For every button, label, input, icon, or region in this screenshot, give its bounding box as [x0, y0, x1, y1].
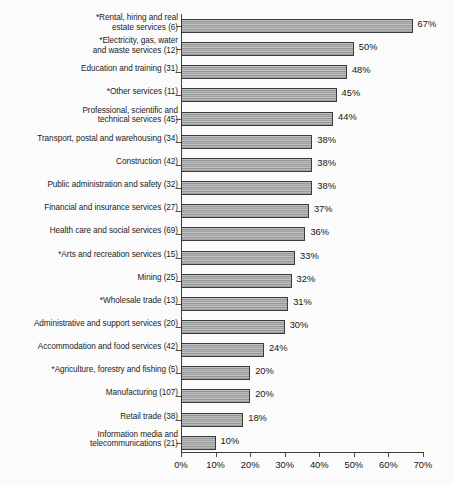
category-label: Financial and insurance services (27) [0, 203, 178, 213]
bar-value-label: 36% [310, 226, 329, 238]
x-axis-tick [181, 453, 182, 457]
y-axis-tick [176, 165, 181, 166]
bar [181, 65, 347, 79]
bar-chart: *Rental, hiring and real estate services… [0, 0, 454, 486]
bar-row: Public administration and safety (32)38% [0, 176, 454, 199]
y-axis-tick [176, 396, 181, 397]
bar [181, 274, 292, 288]
bar-value-label: 24% [269, 342, 288, 354]
bar-value-label: 18% [248, 412, 267, 424]
bar [181, 436, 216, 450]
y-axis-tick [176, 211, 181, 212]
category-label: *Arts and recreation services (15) [0, 250, 178, 260]
bar-row: Retail trade (38)18% [0, 408, 454, 431]
bar-value-label: 38% [317, 157, 336, 169]
bar-value-label: 20% [255, 388, 274, 400]
bar [181, 42, 354, 56]
bar [181, 204, 309, 218]
y-axis-tick [176, 188, 181, 189]
bar [181, 112, 333, 126]
y-axis-tick [176, 420, 181, 421]
category-label: Manufacturing (107) [0, 388, 178, 398]
bar-value-label: 38% [317, 180, 336, 192]
bar-row: Manufacturing (107)20% [0, 384, 454, 407]
bar [181, 135, 312, 149]
y-axis-tick [176, 142, 181, 143]
bar-row: Accommodation and food services (42)24% [0, 338, 454, 361]
bar [181, 413, 243, 427]
category-label: *Rental, hiring and real estate services… [0, 13, 178, 32]
bar-value-label: 33% [300, 250, 319, 262]
bar-value-label: 45% [342, 87, 361, 99]
x-axis-tick-label: 70% [403, 459, 443, 471]
bar [181, 389, 250, 403]
category-label: Health care and social services (69) [0, 226, 178, 236]
category-label: *Other services (11) [0, 87, 178, 97]
bar [181, 366, 250, 380]
category-label: *Electricity, gas, water and waste servi… [0, 36, 178, 55]
bar [181, 158, 312, 172]
bar-row: Education and training (31)48% [0, 60, 454, 83]
bar [181, 19, 413, 33]
bar-value-label: 31% [293, 296, 312, 308]
y-axis-tick [176, 304, 181, 305]
category-label: Mining (25) [0, 273, 178, 283]
y-axis-tick [176, 234, 181, 235]
category-label: Professional, scientific and technical s… [0, 106, 178, 125]
category-label: Public administration and safety (32) [0, 180, 178, 190]
bar [181, 227, 305, 241]
bar-value-label: 32% [297, 273, 316, 285]
bar-value-label: 48% [352, 64, 371, 76]
bar-value-label: 67% [418, 18, 437, 30]
bar-row: Information media and telecommunications… [0, 431, 454, 454]
bar-row: Financial and insurance services (27)37% [0, 199, 454, 222]
bar-row: *Agriculture, forestry and fishing (5)20… [0, 361, 454, 384]
bar-row: Administrative and support services (20)… [0, 315, 454, 338]
category-label: Retail trade (38) [0, 412, 178, 422]
y-axis-tick [176, 72, 181, 73]
x-axis-tick [354, 453, 355, 457]
bar-row: *Wholesale trade (13)31% [0, 292, 454, 315]
category-label: Accommodation and food services (42) [0, 342, 178, 352]
category-label: Construction (42) [0, 157, 178, 167]
bar-row: *Electricity, gas, water and waste servi… [0, 37, 454, 60]
y-axis-tick [176, 373, 181, 374]
bar-value-label: 30% [290, 319, 309, 331]
bar [181, 181, 312, 195]
x-axis-tick [388, 453, 389, 457]
y-axis-tick [176, 443, 181, 444]
bar-row: Mining (25)32% [0, 269, 454, 292]
bar-row: *Rental, hiring and real estate services… [0, 14, 454, 37]
category-label: *Wholesale trade (13) [0, 296, 178, 306]
category-label: Transport, postal and warehousing (34) [0, 134, 178, 144]
bar-row: Construction (42)38% [0, 153, 454, 176]
bar [181, 320, 285, 334]
bar-row: *Arts and recreation services (15)33% [0, 246, 454, 269]
bar-row: *Other services (11)45% [0, 83, 454, 106]
x-axis-tick [250, 453, 251, 457]
bar-row: Health care and social services (69)36% [0, 222, 454, 245]
bar-value-label: 38% [317, 134, 336, 146]
x-axis-tick [319, 453, 320, 457]
y-axis-tick [176, 350, 181, 351]
y-axis-tick [176, 95, 181, 96]
bar-value-label: 50% [359, 41, 378, 53]
x-axis-tick [216, 453, 217, 457]
y-axis-tick [176, 258, 181, 259]
bar [181, 88, 337, 102]
category-label: Information media and telecommunications… [0, 430, 178, 449]
bar [181, 343, 264, 357]
bar-row: Transport, postal and warehousing (34)38… [0, 130, 454, 153]
bar-value-label: 20% [255, 365, 274, 377]
bar [181, 251, 295, 265]
y-axis-tick [176, 119, 181, 120]
x-axis-tick [423, 453, 424, 457]
category-label: *Agriculture, forestry and fishing (5) [0, 365, 178, 375]
bar [181, 297, 288, 311]
bar-row: Professional, scientific and technical s… [0, 107, 454, 130]
y-axis-tick [176, 49, 181, 50]
category-label: Education and training (31) [0, 64, 178, 74]
y-axis-tick [176, 327, 181, 328]
bar-value-label: 10% [221, 435, 240, 447]
x-axis-tick [285, 453, 286, 457]
